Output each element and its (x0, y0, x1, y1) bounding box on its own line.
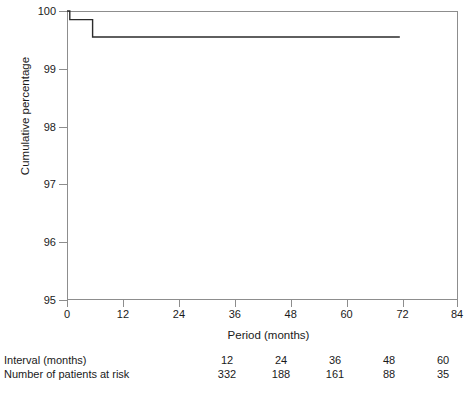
x-axis-tick-24 (179, 300, 180, 307)
y-axis-tick-98 (59, 127, 67, 128)
at-risk-value-24: 188 (254, 367, 308, 381)
x-axis-tick-72 (403, 300, 404, 307)
at-risk-value-48: 88 (362, 367, 416, 381)
y-axis-label-98: 98 (6, 122, 56, 133)
x-axis-label-24: 24 (159, 309, 199, 320)
y-axis-tick-97 (59, 184, 67, 185)
x-axis-tick-36 (235, 300, 236, 307)
row-label-at-risk: Number of patients at risk (4, 367, 200, 381)
y-axis-tick-95 (59, 300, 67, 301)
x-axis-tick-48 (291, 300, 292, 307)
km-curve-path (67, 11, 400, 37)
x-axis-tick-0 (67, 300, 68, 307)
interval-value-48: 48 (362, 353, 416, 367)
interval-value-60: 60 (416, 353, 470, 367)
x-axis-label-0: 0 (47, 309, 87, 320)
x-axis-tick-12 (123, 300, 124, 307)
y-axis-label-97: 97 (6, 179, 56, 190)
interval-value-12: 12 (200, 353, 254, 367)
y-axis-label-96: 96 (6, 237, 56, 248)
table-row-padding (470, 353, 471, 367)
x-axis-label-12: 12 (103, 309, 143, 320)
table-row-padding-2 (470, 367, 471, 381)
at-risk-value-36: 161 (308, 367, 362, 381)
x-axis-label-48: 48 (271, 309, 311, 320)
x-axis-label-72: 72 (383, 309, 423, 320)
y-axis-tick-99 (59, 69, 67, 70)
numbers-at-risk-table: Interval (months) 12 24 36 48 60 Number … (4, 353, 471, 381)
x-axis-label-36: 36 (215, 309, 255, 320)
at-risk-value-12: 332 (200, 367, 254, 381)
interval-value-36: 36 (308, 353, 362, 367)
table-row-interval: Interval (months) 12 24 36 48 60 (4, 353, 471, 367)
table-row-at-risk: Number of patients at risk 332 188 161 8… (4, 367, 471, 381)
y-axis-label-95: 95 (6, 295, 56, 306)
y-axis-tick-96 (59, 242, 67, 243)
y-axis-label-100: 100 (6, 6, 56, 17)
x-axis-label-60: 60 (327, 309, 367, 320)
x-axis-tick-60 (347, 300, 348, 307)
x-axis-label-84: 84 (437, 309, 475, 320)
y-axis-tick-100 (59, 11, 67, 12)
survival-chart-figure: 100 99 98 97 96 95 Cumulative percentage… (0, 0, 475, 394)
survival-step-curve (67, 11, 458, 300)
row-label-interval: Interval (months) (4, 353, 200, 367)
x-axis-title: Period (months) (0, 329, 475, 342)
at-risk-value-60: 35 (416, 367, 470, 381)
x-axis-tick-84 (457, 300, 458, 307)
y-axis-label-99: 99 (6, 64, 56, 75)
y-axis-title: Cumulative percentage (19, 36, 31, 196)
interval-value-24: 24 (254, 353, 308, 367)
x-axis-title-text: Period (months) (228, 329, 310, 341)
